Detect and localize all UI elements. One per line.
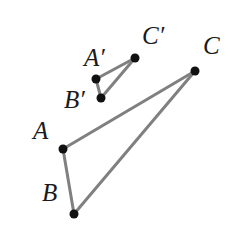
segment-B'C' [101,58,135,98]
vertex-label-A: A [33,118,48,143]
vertex-label-B-prime: B′ [64,87,85,112]
vertex-point-A-prime [92,75,101,84]
vertex-label-C: C [203,33,220,58]
geometry-figure: ABCA′B′C′ [0,0,237,230]
vertex-label-C-prime: C′ [142,23,164,48]
vertex-point-B [70,210,79,219]
vertices-group [59,54,200,219]
vertex-label-A-prime: A′ [84,45,105,70]
segment-BC [74,71,195,214]
vertex-label-B: B [42,180,57,205]
vertex-point-C [191,67,200,76]
edges-group [63,58,195,214]
vertex-point-C-prime [131,54,140,63]
vertex-point-A [59,145,68,154]
geometry-canvas [0,0,237,230]
segment-AB [63,149,74,214]
vertex-point-B-prime [97,94,106,103]
